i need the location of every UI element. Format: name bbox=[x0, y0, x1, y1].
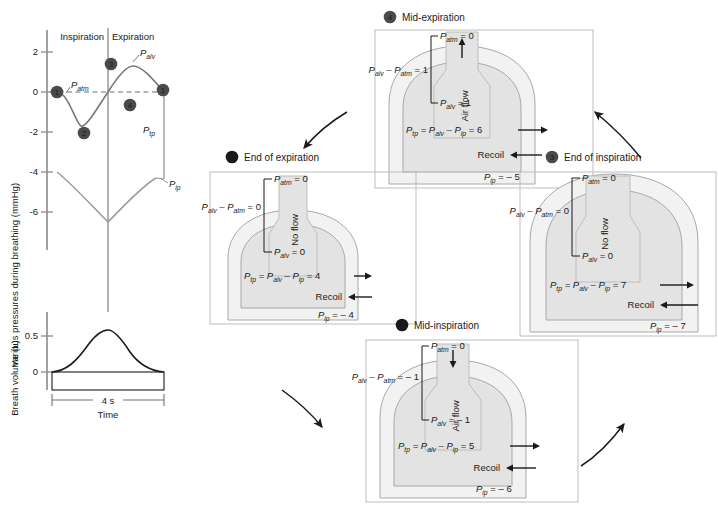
svg-text:3: 3 bbox=[550, 153, 555, 162]
panel3-flow-label: No flow bbox=[599, 218, 610, 250]
panel3-recoil-label: Recoil bbox=[628, 299, 654, 310]
panel1-title: End of expiration bbox=[244, 152, 319, 163]
svg-text:Patm = 0: Patm = 0 bbox=[274, 173, 308, 186]
panel4-header: 4 Mid-expiration bbox=[384, 11, 465, 24]
arrow-4-to-1 bbox=[304, 112, 347, 148]
panel1-flow-label: No flow bbox=[289, 214, 300, 246]
svg-text:2: 2 bbox=[400, 321, 405, 330]
svg-text:1: 1 bbox=[230, 153, 235, 162]
panel4-title: Mid-expiration bbox=[402, 12, 465, 23]
panel-end-inspiration[interactable]: 3 End of inspiration No flow Patm = 0 Pa… bbox=[508, 148, 718, 338]
panel3-title: End of inspiration bbox=[564, 152, 641, 163]
panel1-p-alv: Palv = 0 bbox=[274, 246, 305, 259]
panel-mid-inspiration[interactable]: 2 Mid-inspiration Air flow Patm = 0 Palv… bbox=[344, 316, 594, 504]
panel3-gradient-label: Palv – Patm = 0 bbox=[510, 205, 569, 218]
arrow-1-to-2 bbox=[282, 390, 322, 427]
panel1-header: 1 End of expiration bbox=[226, 151, 319, 164]
svg-text:Patm = 0: Patm = 0 bbox=[582, 172, 616, 185]
panel1-recoil-label: Recoil bbox=[316, 291, 342, 302]
panel2-p-atm: Patm = 0 bbox=[422, 340, 465, 353]
panel1-p-atm: Patm = 0 bbox=[264, 173, 308, 186]
panel-end-expiration[interactable]: 1 End of expiration No flow Patm = 0 Pal… bbox=[196, 148, 426, 326]
panel2-header: 2 Mid-inspiration bbox=[396, 319, 479, 332]
panel2-p-alv: Palv = – 1 bbox=[431, 414, 470, 427]
panel4-recoil-label: Recoil bbox=[478, 149, 504, 160]
panel2-gradient-label: Palv – Patm = – 1 bbox=[352, 371, 419, 384]
panel4-p-alv: Palv = 1 bbox=[440, 97, 471, 110]
panel2-recoil-label: Recoil bbox=[474, 462, 500, 473]
svg-text:4: 4 bbox=[388, 13, 393, 22]
panel2-title: Mid-inspiration bbox=[414, 320, 479, 331]
panel3-p-alv: Palv = 0 bbox=[582, 250, 613, 263]
panel4-gradient-label: Palv – Patm = 1 bbox=[369, 64, 428, 77]
svg-text:Patm = 0: Patm = 0 bbox=[431, 340, 465, 353]
svg-text:Patm = 0: Patm = 0 bbox=[440, 30, 474, 43]
panel3-header: 3 End of inspiration bbox=[546, 151, 642, 164]
